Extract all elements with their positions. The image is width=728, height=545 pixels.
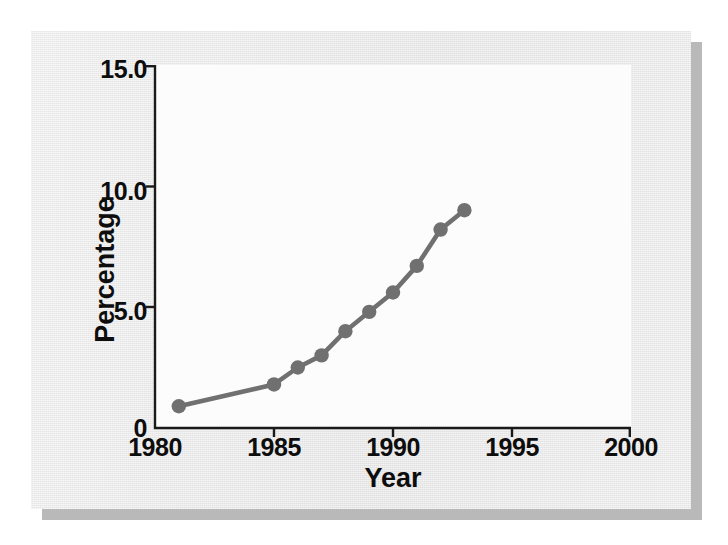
- x-tick-label-2000: 2000: [604, 435, 658, 460]
- x-tick-label-1985: 1985: [247, 435, 301, 460]
- y-axis-title: Percentage: [90, 190, 121, 350]
- series-line: [179, 210, 465, 406]
- data-point-marker: [267, 377, 281, 391]
- x-tick-label-1990: 1990: [366, 435, 420, 460]
- data-point-marker: [386, 285, 400, 299]
- series-percentage: [172, 203, 472, 413]
- data-point-marker: [410, 259, 424, 273]
- data-point-marker: [433, 222, 447, 236]
- x-tick-label-1980: 1980: [128, 435, 182, 460]
- axes-and-series-svg: [155, 65, 631, 428]
- data-point-marker: [172, 399, 186, 413]
- chart-panel: 15.0 10.0 5.0 0 1980 1985 1990 1995 2000…: [31, 31, 691, 509]
- x-axis-title: Year: [155, 463, 631, 494]
- plot-area: [155, 65, 631, 428]
- figure-root: 15.0 10.0 5.0 0 1980 1985 1990 1995 2000…: [0, 0, 728, 545]
- data-point-marker: [362, 305, 376, 319]
- data-point-marker: [291, 360, 305, 374]
- data-point-marker: [314, 348, 328, 362]
- x-tick-label-1995: 1995: [485, 435, 539, 460]
- data-point-marker: [338, 324, 352, 338]
- data-point-marker: [457, 203, 471, 217]
- axis-spines: [155, 65, 631, 428]
